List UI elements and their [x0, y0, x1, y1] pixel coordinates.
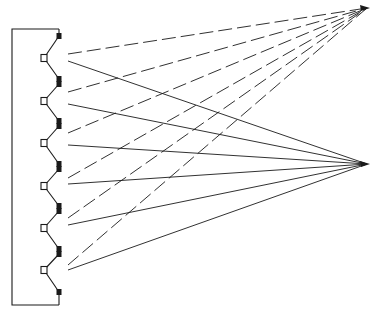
array-element [41, 208, 62, 252]
open-square-element [41, 225, 47, 232]
array-element [41, 251, 62, 295]
solid-ray [68, 164, 367, 184]
open-square-element [41, 183, 47, 190]
open-square-element [41, 98, 47, 105]
solid-ray [68, 164, 367, 270]
filled-square-junction [57, 81, 62, 87]
open-square-element [41, 140, 47, 147]
element-array [41, 33, 62, 295]
dashed-ray [68, 8, 367, 92]
frame-outline [12, 29, 59, 305]
focal-points [360, 5, 370, 167]
filled-square-junction [57, 33, 62, 39]
dashed-ray [68, 8, 367, 178]
filled-square-junction [57, 289, 62, 295]
array-element [41, 33, 62, 82]
array-element [41, 123, 62, 167]
rays [68, 8, 367, 270]
dashed-ray [68, 8, 367, 265]
open-square-element [41, 55, 47, 62]
array-element [41, 166, 62, 209]
array-element [41, 81, 62, 124]
frame [12, 29, 59, 305]
solid-ray [68, 145, 367, 164]
filled-square-junction [57, 123, 62, 129]
filled-square-junction [57, 251, 62, 257]
open-square-element [41, 267, 47, 274]
filled-square-junction [57, 166, 62, 172]
ray-diagram [0, 0, 379, 317]
lower-focus-point [360, 161, 370, 167]
filled-square-junction [57, 208, 62, 214]
dashed-ray [68, 8, 367, 133]
solid-ray [68, 164, 367, 225]
